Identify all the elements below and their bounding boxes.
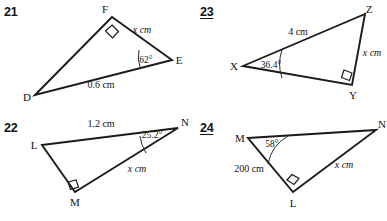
problem-22: 22 L N M 1.2 cm x cm 25.2° — [0, 110, 193, 220]
vertex-label-l: L — [290, 197, 297, 209]
problem-23: 23 Z X Y 4 cm x cm 36.4° — [194, 0, 387, 110]
side-label-1-2-cm: 1.2 cm — [87, 118, 114, 129]
vertex-label-m: M — [70, 196, 80, 208]
vertex-label-e: E — [176, 54, 183, 66]
side-label-x-cm: x cm — [362, 47, 382, 58]
vertex-label-n: N — [181, 116, 189, 128]
angle-label-n: 25.2° — [142, 130, 163, 140]
vertex-label-n: N — [378, 118, 386, 130]
side-label-4-cm: 4 cm — [288, 26, 308, 37]
problem-21: 21 F E D x cm 0.6 cm 62° — [0, 0, 193, 110]
angle-label-x: 36.4° — [261, 60, 282, 70]
vertex-label-l: L — [31, 139, 38, 151]
worksheet-sheet: 21 F E D x cm 0.6 cm 62° 23 — [0, 0, 387, 221]
side-label-x-cm: x cm — [127, 163, 147, 174]
right-angle-marker-l — [287, 175, 299, 185]
right-angle-marker-y — [342, 70, 353, 81]
triangle-outline-xyz — [243, 14, 365, 85]
vertex-label-m: M — [235, 132, 245, 144]
figure-triangle-xyz: Z X Y 4 cm x cm 36.4° — [194, 0, 387, 110]
vertex-label-x: X — [230, 60, 238, 72]
vertex-label-f: F — [102, 3, 108, 15]
figure-triangle-mnl: M N L 200 cm x cm 58° — [194, 110, 387, 220]
vertex-label-z: Z — [366, 3, 373, 15]
side-label-x-cm: x cm — [334, 159, 354, 170]
side-label-200-cm: 200 cm — [234, 163, 264, 174]
right-angle-marker-f — [106, 25, 119, 38]
figure-triangle-def: F E D x cm 0.6 cm 62° — [0, 0, 193, 110]
vertex-label-y: Y — [349, 89, 357, 101]
angle-label-e: 62° — [139, 55, 153, 65]
vertex-label-d: D — [23, 91, 31, 103]
figure-triangle-lmn: L N M 1.2 cm x cm 25.2° — [0, 110, 193, 220]
side-label-x-cm: x cm — [132, 24, 152, 35]
side-label-base: 0.6 cm — [87, 79, 114, 90]
problem-24: 24 M N L 200 cm x cm 58° — [194, 110, 387, 220]
angle-label-m: 58° — [265, 139, 279, 149]
